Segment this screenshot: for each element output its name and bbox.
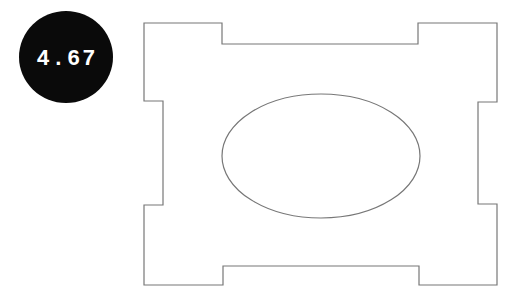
figure-canvas: 4.67	[0, 0, 523, 300]
notched-rectangle-outline	[144, 23, 497, 285]
figure-svg: 4.67	[0, 0, 523, 300]
badge-value: 4.67	[37, 47, 98, 72]
inner-ellipse-outline	[222, 94, 420, 218]
